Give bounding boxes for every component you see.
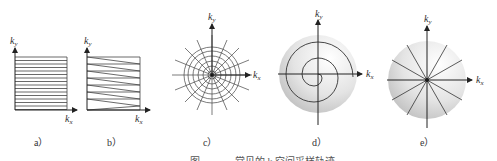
- panel-label-d: d）: [312, 137, 327, 148]
- panel-label-c: c）: [203, 137, 217, 148]
- panel-e: ky kx e）: [387, 13, 484, 148]
- panel-a: ky kx a）: [10, 35, 77, 148]
- ky-label: ky: [208, 11, 216, 24]
- k-space-trajectories-figure: ky kx a） ky kx b）: [0, 0, 497, 161]
- panel-label-a: a）: [34, 137, 48, 148]
- ky-label: ky: [424, 13, 432, 26]
- ky-label: ky: [84, 35, 92, 48]
- ky-label: ky: [315, 8, 323, 21]
- ky-label: ky: [10, 35, 18, 48]
- figure-caption: 图 ——— 常见的 k 空间采样轨迹: [190, 155, 335, 161]
- kx-label: kx: [476, 74, 484, 87]
- panel-b: ky kx b）: [84, 35, 150, 148]
- panel-c: ky kx c）: [172, 11, 261, 148]
- kx-label: kx: [253, 69, 261, 82]
- panel-label-e: e）: [420, 137, 434, 148]
- kx-label: kx: [366, 68, 374, 81]
- raster-lines: [15, 57, 67, 110]
- kx-label: kx: [65, 113, 73, 126]
- panel-label-b: b）: [107, 137, 122, 148]
- zigzag-lines: [87, 57, 140, 110]
- kx-label: kx: [135, 113, 143, 126]
- panel-d: ky kx d）: [278, 8, 374, 148]
